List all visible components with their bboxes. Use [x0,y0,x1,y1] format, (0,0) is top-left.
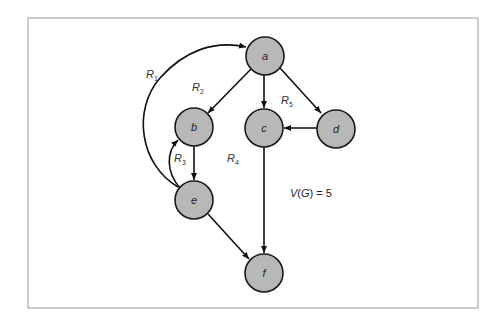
node-e-label: e [191,194,197,206]
region-r3-sub: 3 [182,159,186,166]
region-r5-sub: 5 [289,101,293,108]
flow-graph-diagram: a b c d e f R1 R2 R3 R4 R5 V(G) = 5 [0,0,501,320]
region-r4-sub: 4 [235,159,239,166]
node-b: b [175,108,213,146]
node-c: c [245,109,283,147]
node-c-label: c [261,122,267,134]
formula-value: = 5 [313,187,332,199]
region-r3-main: R [174,152,182,164]
node-a-label: a [262,50,268,62]
cyclomatic-complexity-formula: V(G) = 5 [290,187,332,199]
region-r5-main: R [281,94,289,106]
region-r1-sub: 1 [154,75,158,82]
node-a: a [246,37,284,75]
region-r2-main: R [192,81,200,93]
region-r2-sub: 2 [200,88,204,95]
node-d-label: d [333,123,340,135]
node-d: d [317,110,355,148]
region-r1-main: R [146,68,154,80]
node-b-label: b [191,121,197,133]
node-e: e [175,181,213,219]
node-f: f [245,254,283,292]
region-r4-main: R [227,152,235,164]
